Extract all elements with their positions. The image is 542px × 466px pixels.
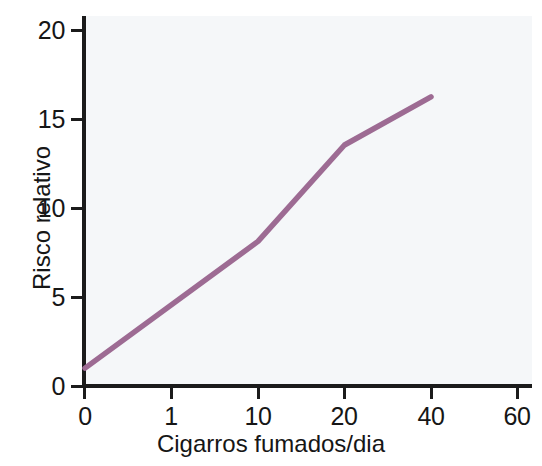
data-series-layer [0,0,542,466]
chart-figure: 0 5 10 15 20 0 1 10 20 40 60 Risco relat… [0,0,542,466]
x-axis-title: Cigarros fumados/dia [0,432,542,456]
y-axis-title: Risco relativo [30,88,54,348]
line-series-risco-relativo [85,97,431,368]
